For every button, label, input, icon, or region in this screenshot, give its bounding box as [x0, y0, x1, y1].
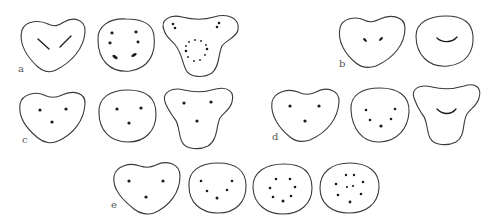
dot: [231, 180, 234, 183]
panel-c: c: [20, 88, 233, 148]
dot: [200, 180, 203, 183]
round-outline: [189, 163, 246, 213]
dot: [282, 200, 285, 203]
dot: [64, 107, 67, 110]
dot: [137, 41, 140, 44]
dot: [174, 27, 177, 30]
round-outline: [351, 88, 409, 142]
heart-outline: [20, 92, 85, 142]
panel-b-shape-1-heart: [339, 16, 405, 67]
trilobed-outline: [413, 85, 479, 145]
dot: [172, 23, 175, 26]
dot: [390, 118, 393, 121]
panel-label-c: c: [22, 134, 28, 145]
dot: [115, 107, 118, 110]
round-outline: [320, 163, 379, 213]
trilobed-outline: [164, 88, 232, 148]
dot: [134, 31, 137, 34]
short-mark-left: [362, 37, 367, 42]
panel-a-shape-2-round: [98, 19, 154, 71]
round-outline: [98, 19, 154, 71]
heart-outline: [339, 16, 405, 67]
dot: [352, 185, 354, 187]
smile-curve: [437, 109, 456, 114]
ring-dot: [204, 54, 206, 56]
ring-dot: [187, 56, 189, 58]
trilobed-outline: [163, 16, 238, 77]
dot: [110, 32, 113, 35]
ring-dot: [194, 39, 196, 41]
dot: [209, 100, 212, 103]
elongated-mark: [112, 54, 119, 60]
ring-dot: [193, 60, 195, 62]
dot: [394, 108, 397, 111]
panel-a-shape-3-trilobed: [163, 16, 238, 77]
embryo-shape-diagram: a: [0, 0, 499, 224]
dot: [216, 197, 219, 200]
panel-b: b: [339, 16, 473, 69]
dot: [218, 22, 221, 25]
ring-dot: [200, 40, 202, 42]
dot: [349, 201, 352, 204]
dot: [139, 106, 142, 109]
dot: [289, 178, 292, 181]
ring-dot: [206, 48, 209, 51]
heart-outline: [114, 163, 180, 214]
smile-curve: [437, 37, 457, 42]
panel-c-shape-3-trilobed: [164, 88, 232, 148]
dot: [50, 120, 53, 123]
dot: [294, 186, 297, 189]
dot: [127, 121, 130, 124]
panel-e-shape-2-round: [189, 163, 246, 213]
panel-label-d: d: [272, 131, 279, 142]
dot: [272, 196, 275, 199]
dot: [216, 26, 219, 29]
panel-label-a: a: [18, 63, 24, 74]
panel-c-shape-1-heart: [20, 92, 85, 142]
dot: [379, 124, 382, 127]
short-mark-right: [378, 36, 383, 41]
dot: [365, 109, 368, 112]
dot: [353, 174, 355, 176]
panel-b-shape-2-round: [416, 16, 473, 66]
ring-dot: [185, 50, 188, 53]
dot: [362, 181, 365, 184]
dot: [144, 195, 147, 198]
panel-e-shape-3-round: [253, 164, 312, 214]
dot: [182, 101, 185, 104]
panel-label-e: e: [111, 199, 117, 210]
heart-outline: [272, 89, 339, 141]
dot: [269, 187, 272, 190]
heart-outline: [21, 19, 85, 71]
oblique-line-left: [38, 39, 49, 49]
dot: [337, 194, 340, 197]
ring-dot: [199, 59, 201, 61]
dot: [288, 104, 291, 107]
panel-d-shape-2-round: [351, 88, 409, 142]
panel-c-shape-2-round: [99, 90, 156, 142]
ring-dot: [205, 44, 207, 46]
ring-dot: [188, 41, 190, 43]
dot: [38, 108, 41, 111]
dot: [161, 179, 164, 182]
dot: [317, 104, 320, 107]
dot: [226, 189, 229, 192]
dot: [275, 178, 278, 181]
dot: [195, 119, 198, 122]
dot: [290, 195, 293, 198]
dot: [303, 119, 306, 122]
panel-e-shape-4-round: [320, 163, 379, 213]
dot: [346, 186, 348, 188]
dot: [369, 119, 372, 122]
dot: [345, 174, 347, 176]
dot: [335, 183, 338, 186]
panel-a-shape-1-heart: [21, 19, 85, 71]
dot: [360, 193, 363, 196]
panel-d-shape-1-heart: [272, 89, 339, 141]
dot: [206, 190, 209, 193]
oblique-line-right: [60, 36, 71, 47]
panel-d: d: [272, 85, 480, 145]
panel-a: a: [18, 16, 238, 77]
panel-d-shape-3-trilobed: [413, 85, 479, 145]
dot: [108, 42, 111, 45]
